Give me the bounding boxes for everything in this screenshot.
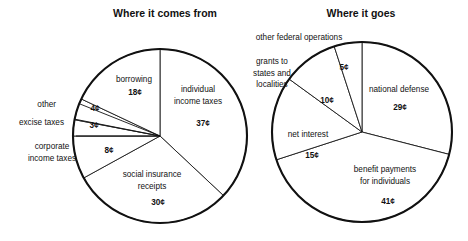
slice-label-corporate-income-taxes: corporate	[35, 142, 70, 151]
pie-chart-where-it-comes-from: Where it comes fromindividualincome taxe…	[19, 7, 247, 223]
slice-label-social-insurance-receipts: social insurance	[123, 170, 182, 179]
slice-label-other: other	[37, 100, 56, 109]
slice-label-grants-to-states-and-localities: grants to	[256, 57, 288, 66]
slice-label-grants-to-states-and-localities: states and	[253, 69, 291, 78]
slice-label-individual-income-taxes: income taxes	[174, 97, 222, 106]
slice-label-social-insurance-receipts: receipts	[138, 182, 167, 191]
slice-label-grants-to-states-and-localities: localities	[256, 80, 287, 89]
slice-label-benefit-payments-for-individuals: for individuals	[360, 177, 410, 186]
slice-label-excise-taxes: excise taxes	[19, 118, 64, 127]
slice-label-other-federal-operations: other federal operations	[256, 33, 342, 42]
pie-charts-svg: Where it comes fromindividualincome taxe…	[0, 0, 468, 241]
figure-canvas: Where it comes fromindividualincome taxe…	[0, 0, 468, 241]
slice-label-individual-income-taxes: individual	[181, 85, 215, 94]
slice-value-national-defense: 29¢	[393, 103, 407, 112]
slice-value-benefit-payments-for-individuals: 41¢	[381, 197, 395, 206]
slice-label-national-defense: national defense	[369, 85, 430, 94]
slice-value-net-interest: 15¢	[305, 151, 319, 160]
slice-label-corporate-income-taxes: income taxes	[28, 154, 76, 163]
slice-value-grants-to-states-and-localities: 10¢	[320, 96, 334, 105]
slice-value-excise-taxes: 3¢	[89, 121, 99, 130]
slice-value-individual-income-taxes: 37¢	[196, 119, 210, 128]
slice-value-social-insurance-receipts: 30¢	[151, 198, 165, 207]
slice-label-borrowing: borrowing	[116, 75, 152, 84]
slice-value-borrowing: 18¢	[128, 88, 142, 97]
chart-title-where-it-comes-from: Where it comes from	[113, 7, 217, 19]
slice-value-other-federal-operations: 5¢	[339, 63, 349, 72]
chart-title-where-it-goes: Where it goes	[327, 7, 396, 19]
slice-label-benefit-payments-for-individuals: benefit payments	[354, 165, 416, 174]
slice-label-net-interest: net interest	[288, 130, 329, 139]
slice-value-other: 4¢	[90, 104, 100, 113]
slice-value-corporate-income-taxes: 8¢	[104, 146, 114, 155]
pie-chart-where-it-goes: Where it goesnational defense29¢benefit …	[253, 7, 452, 222]
